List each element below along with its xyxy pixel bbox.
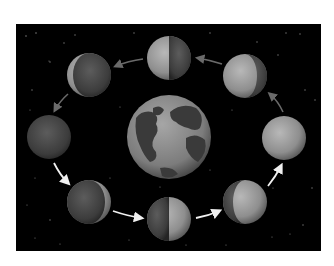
arrow-icon [270, 94, 283, 112]
moon-first-quarter [147, 197, 191, 241]
moon-new [27, 115, 71, 159]
arrow-icon [113, 211, 141, 218]
arrow-icon [116, 59, 143, 66]
moon-waning-gibbous [223, 54, 267, 98]
arrow-icon [196, 211, 219, 218]
moon-full [262, 116, 306, 160]
moon-waxing-gibbous [223, 180, 267, 224]
arrow-icon [198, 58, 222, 64]
arrow-icon [55, 94, 68, 110]
moon-third-quarter [147, 36, 191, 80]
moon-waning-crescent [67, 53, 111, 97]
arrow-icon [268, 166, 281, 186]
moon-phase-diagram: Phases of the Moon around Earth [0, 0, 334, 266]
earth [127, 95, 211, 179]
arrow-icon [54, 163, 68, 183]
moon-waxing-crescent [67, 180, 111, 224]
